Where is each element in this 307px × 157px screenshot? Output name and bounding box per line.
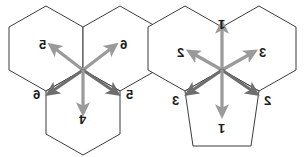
right-label-bottom: 1 bbox=[218, 122, 225, 135]
diagram-canvas: 5 6 6 5 4 1 2 3 3 2 1 bbox=[0, 0, 307, 157]
left-label-bottom: 4 bbox=[79, 113, 86, 126]
right-label-lower-left: 3 bbox=[172, 94, 179, 107]
left-label-lower-left: 6 bbox=[33, 88, 40, 101]
right-label-upper-right: 3 bbox=[259, 46, 266, 59]
diagram-svg bbox=[0, 0, 307, 157]
right-label-lower-right: 2 bbox=[264, 94, 271, 107]
right-label-upper-left: 2 bbox=[177, 46, 184, 59]
left-label-upper-left: 5 bbox=[39, 38, 46, 51]
left-label-upper-right: 6 bbox=[120, 38, 127, 51]
left-label-lower-right: 5 bbox=[126, 88, 133, 101]
right-label-top: 1 bbox=[218, 18, 225, 31]
